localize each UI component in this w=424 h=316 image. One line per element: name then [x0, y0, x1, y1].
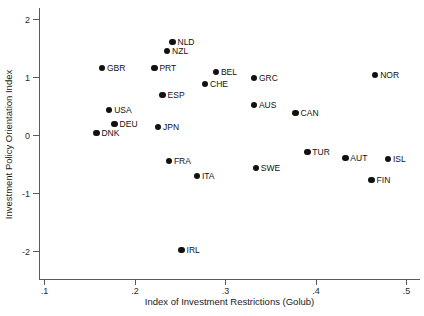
data-point-label: NZL	[172, 47, 188, 56]
data-point-label: ISL	[393, 155, 406, 164]
data-point-label: ITA	[202, 172, 215, 181]
marker-dot	[385, 156, 391, 162]
x-axis-title: Index of Investment Restrictions (Golub)	[39, 297, 420, 307]
data-point-label: AUT	[350, 154, 367, 163]
marker-dot	[169, 39, 175, 45]
x-tick-.3: .3	[225, 280, 226, 285]
marker-dot	[178, 247, 184, 253]
data-point-label: CHE	[210, 80, 228, 89]
data-point-label: GBR	[107, 63, 125, 72]
plot-data-area	[39, 8, 420, 279]
marker-dot	[292, 110, 298, 116]
x-tick-.4: .4	[316, 280, 317, 285]
data-point-label: NOR	[380, 71, 399, 80]
x-axis-line	[39, 279, 420, 280]
y-tick-label: -1	[22, 189, 30, 198]
y-tick-label: 1	[25, 73, 30, 82]
x-tick-.1: .1	[44, 280, 45, 285]
data-point-label: FIN	[377, 176, 391, 185]
marker-dot	[99, 65, 105, 71]
y-tick-label: -2	[22, 247, 30, 256]
data-point-label: JPN	[163, 123, 179, 132]
x-tick-label: .5	[403, 287, 411, 296]
x-tick-label: .1	[41, 287, 49, 296]
data-point-label: DEU	[120, 120, 138, 129]
data-point-label: GRC	[259, 74, 278, 83]
marker-dot	[111, 121, 117, 127]
data-point-label: AUS	[259, 101, 276, 110]
data-point-label: SWE	[261, 164, 280, 173]
marker-dot	[151, 65, 157, 71]
scatter-plot-figure: 210-1-2 .1.2.3.4.5 Index of Investment R…	[0, 0, 424, 316]
marker-dot	[342, 155, 348, 161]
x-tick-.5: .5	[406, 280, 407, 285]
x-tick-.2: .2	[135, 280, 136, 285]
data-point-label: USA	[114, 106, 131, 115]
data-point-label: TUR	[312, 148, 329, 157]
x-tick-label: .3	[222, 287, 230, 296]
marker-dot	[304, 149, 310, 155]
data-point-label: IRL	[187, 246, 200, 255]
data-point-label: CAN	[301, 109, 319, 118]
y-axis-title: Investment Policy Orientation Index	[2, 9, 15, 280]
data-point-label: FRA	[174, 157, 191, 166]
data-point-label: PRT	[159, 63, 176, 72]
x-tick-label: .2	[131, 287, 139, 296]
x-tick-label: .4	[312, 287, 320, 296]
data-point-label: ESP	[168, 91, 185, 100]
y-tick-label: 0	[25, 131, 30, 140]
marker-dot	[159, 92, 165, 98]
marker-dot	[213, 69, 219, 75]
data-point-label: BEL	[221, 68, 237, 77]
data-point-label: DNK	[101, 129, 119, 138]
y-tick-label: 2	[25, 15, 30, 24]
